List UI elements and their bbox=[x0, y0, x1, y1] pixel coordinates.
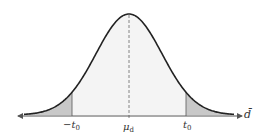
left-critical-value-label: −t0 bbox=[63, 119, 80, 132]
distribution-diagram: −t0 μd t0 d̄ bbox=[0, 0, 265, 138]
bell-curve-graphic bbox=[0, 0, 265, 138]
right-tail-region bbox=[186, 92, 234, 115]
acceptance-region bbox=[72, 14, 186, 115]
right-critical-value-label: t0 bbox=[183, 119, 192, 132]
axis-variable-label: d̄ bbox=[244, 108, 251, 121]
mean-label: μd bbox=[123, 121, 134, 134]
left-tail-region bbox=[24, 92, 72, 115]
